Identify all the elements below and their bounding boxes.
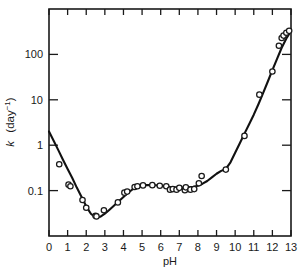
x-tick-label: 5 xyxy=(139,241,145,253)
x-tick-labels: 012345678910111213 xyxy=(46,241,297,253)
ph-rate-profile-chart: 012345678910111213 0.1110100 pH k (day−1… xyxy=(0,0,306,271)
data-point-marker xyxy=(94,214,99,219)
data-point-marker xyxy=(135,184,140,189)
svg-text:k (day−1): k (day−1) xyxy=(3,97,16,146)
data-point-marker xyxy=(286,28,291,33)
x-tick-label: 11 xyxy=(248,241,259,253)
data-point-marker xyxy=(157,183,162,188)
x-tick-label: 3 xyxy=(102,241,108,253)
data-point-marker xyxy=(150,182,155,187)
x-axis-ticks xyxy=(49,230,291,236)
x-tick-label: 1 xyxy=(65,241,71,253)
data-point-marker xyxy=(199,173,204,178)
x-axis-top-ticks xyxy=(49,9,291,15)
data-point-marker xyxy=(192,186,197,191)
y-axis-title-paren: ) xyxy=(4,97,16,101)
data-point-marker xyxy=(68,184,73,189)
x-tick-label: 8 xyxy=(195,241,201,253)
x-tick-label: 6 xyxy=(158,241,164,253)
x-tick-label: 2 xyxy=(83,241,89,253)
y-tick-labels: 0.1110100 xyxy=(25,48,43,196)
data-point-marker xyxy=(177,185,182,190)
data-point-marker xyxy=(196,181,201,186)
data-point-marker xyxy=(276,43,281,48)
y-axis-title-units: (day xyxy=(4,110,16,133)
y-axis-right-ticks xyxy=(282,54,291,190)
data-point-marker xyxy=(57,162,62,167)
data-point-marker xyxy=(242,133,247,138)
data-point-marker xyxy=(115,200,120,205)
x-axis-title: pH xyxy=(163,255,177,267)
data-point-marker xyxy=(124,189,129,194)
data-point-marker xyxy=(270,69,275,74)
y-tick-label: 10 xyxy=(31,94,43,106)
data-point-marker xyxy=(257,92,262,97)
data-point-marker xyxy=(140,183,145,188)
data-point-marker xyxy=(84,205,89,210)
y-axis-title-symbol: k xyxy=(4,140,16,147)
x-tick-label: 7 xyxy=(176,241,182,253)
data-point-marker xyxy=(223,167,228,172)
x-tick-label: 9 xyxy=(213,241,219,253)
data-points xyxy=(57,28,292,219)
y-tick-label: 0.1 xyxy=(28,185,43,197)
y-axis-title: k (day−1) xyxy=(3,97,16,146)
y-tick-label: 100 xyxy=(25,48,43,60)
plot-frame xyxy=(49,9,291,236)
x-tick-label: 10 xyxy=(229,241,241,253)
chart-figure: 012345678910111213 0.1110100 pH k (day−1… xyxy=(0,0,306,271)
x-tick-label: 4 xyxy=(120,241,126,253)
data-point-marker xyxy=(101,208,106,213)
y-axis-ticks xyxy=(49,54,58,190)
x-tick-label: 13 xyxy=(285,241,297,253)
x-tick-label: 12 xyxy=(266,241,278,253)
x-tick-label: 0 xyxy=(46,241,52,253)
y-tick-label: 1 xyxy=(37,139,43,151)
data-point-marker xyxy=(80,197,85,202)
